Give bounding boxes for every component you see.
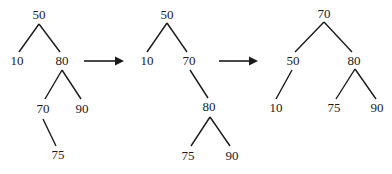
transition-arrow-icon — [219, 57, 258, 66]
edge-50-70 — [167, 23, 187, 52]
tree-node-70: 70 — [37, 101, 50, 116]
tree-node-10: 10 — [270, 100, 283, 115]
edge-50-80 — [39, 24, 60, 52]
tree-node-90: 90 — [226, 148, 239, 163]
tree-node-75: 75 — [52, 147, 65, 162]
edge-80-70 — [45, 70, 62, 99]
tree-node-70: 70 — [318, 6, 331, 21]
tree-node-75: 75 — [182, 148, 195, 163]
edge-70-80 — [190, 70, 208, 98]
transition-arrow-icon — [84, 57, 124, 66]
tree-node-80: 80 — [203, 99, 216, 114]
tree2-edges — [147, 23, 230, 146]
tree1-edges — [19, 24, 81, 146]
arrows-layer — [84, 57, 258, 66]
tree-node-70: 70 — [183, 53, 196, 68]
edge-80-90 — [210, 117, 230, 146]
edge-80-90 — [62, 70, 81, 99]
tree-node-80: 80 — [348, 53, 361, 68]
edge-70-75 — [43, 119, 56, 146]
tree-node-90: 90 — [76, 101, 89, 116]
edges-layer — [19, 22, 376, 146]
tree-node-90: 90 — [371, 100, 384, 115]
nodes-layer: 501080709075501070807590705080107590 — [11, 6, 384, 163]
tree-node-50: 50 — [161, 7, 174, 22]
edge-80-90 — [355, 69, 376, 99]
edge-50-10 — [147, 23, 167, 52]
edge-70-80 — [324, 22, 352, 52]
tree-node-10: 10 — [11, 53, 24, 68]
tree-node-80: 80 — [56, 53, 69, 68]
edge-80-75 — [191, 117, 210, 146]
rotation-diagram: 501080709075501070807590705080107590 — [0, 0, 392, 174]
tree-node-50: 50 — [287, 53, 300, 68]
tree-node-10: 10 — [141, 53, 154, 68]
edge-50-10 — [276, 70, 292, 99]
edge-80-75 — [336, 69, 355, 99]
tree1: 501080709075 — [11, 7, 89, 162]
tree2: 501070807590 — [141, 7, 239, 163]
edge-70-50 — [295, 22, 324, 52]
tree-node-50: 50 — [33, 7, 46, 22]
tree3: 705080107590 — [270, 6, 384, 115]
tree-node-75: 75 — [328, 100, 341, 115]
edge-50-10 — [19, 24, 39, 52]
